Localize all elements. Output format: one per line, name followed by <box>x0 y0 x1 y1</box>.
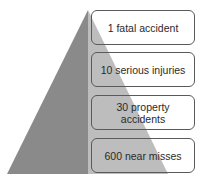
pyramid-dark-half <box>7 10 88 174</box>
level-1-label: 1 fatal accident <box>108 22 179 34</box>
level-3-box: 30 property accidents <box>91 95 195 130</box>
level-2-label: 10 serious injuries <box>101 64 186 76</box>
level-4-box: 600 near misses <box>91 138 195 173</box>
level-3-label: 30 property accidents <box>106 101 180 125</box>
level-4-label: 600 near misses <box>104 150 181 162</box>
level-1-box: 1 fatal accident <box>91 10 195 45</box>
level-2-box: 10 serious injuries <box>91 52 195 87</box>
